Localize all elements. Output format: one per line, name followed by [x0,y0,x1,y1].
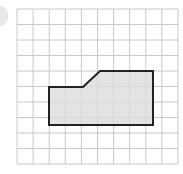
shaded-polygon [49,71,153,125]
grid-diagram [0,0,183,174]
